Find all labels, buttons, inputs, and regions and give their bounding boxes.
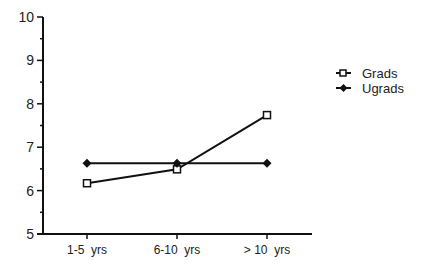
filled-diamond-marker-icon: [83, 159, 92, 168]
legend-item-grads: Grads: [336, 66, 398, 81]
y-tick-label: 9: [26, 52, 34, 68]
x-tick-label: 1-5 yrs: [67, 243, 107, 257]
x-tick-label: 6-10 yrs: [154, 243, 201, 257]
filled-diamond-marker-icon: [340, 84, 348, 92]
series-ugrads: [83, 159, 272, 168]
legend-item-ugrads: Ugrads: [336, 81, 404, 96]
y-tick-label: 7: [26, 139, 34, 155]
open-square-marker-icon: [264, 112, 271, 119]
y-tick-label: 8: [26, 96, 34, 112]
open-square-marker-icon: [340, 70, 346, 76]
line-chart: 56789101-5 yrs6-10 yrs> 10 yrs Grads Ugr…: [0, 0, 421, 271]
legend-label-grads: Grads: [362, 66, 398, 81]
y-tick-label: 5: [26, 226, 34, 242]
filled-diamond-marker-icon: [263, 159, 272, 168]
y-tick-label: 6: [26, 183, 34, 199]
legend: Grads Ugrads: [336, 66, 404, 96]
y-tick-label: 10: [18, 9, 34, 25]
axes: 56789101-5 yrs6-10 yrs> 10 yrs: [18, 9, 312, 257]
series-grads: [84, 112, 271, 187]
plot-area: [83, 112, 272, 187]
legend-label-ugrads: Ugrads: [362, 81, 404, 96]
open-square-marker-icon: [84, 180, 91, 187]
x-tick-label: > 10 yrs: [244, 243, 290, 257]
